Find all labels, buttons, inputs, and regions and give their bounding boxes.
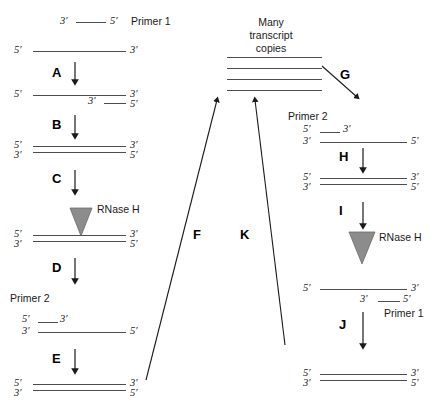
right-stage5-bottom-right-end: 5′	[411, 378, 419, 389]
right-stage2-bottom-right-end: 5′	[411, 182, 419, 193]
step-letter-i: I	[339, 204, 343, 217]
left-stage1-strand	[33, 51, 126, 52]
right-stage4-top-strand	[320, 289, 407, 290]
right-stage5-top-strand	[320, 374, 407, 375]
arrow-step-k	[255, 100, 285, 345]
step-letter-g: G	[340, 68, 350, 81]
right-stage1-primer-left-end: 5′	[303, 124, 311, 135]
primer1-legend-name: Primer 1	[131, 15, 171, 28]
left-stage5-primer-strand	[38, 322, 58, 323]
left-stage4-bottom-left-end: 3′	[14, 239, 22, 250]
left-stage2-primer-right-end: 5′	[130, 99, 138, 110]
left-stage3-bottom-right-end: 5′	[130, 150, 138, 161]
left-stage5-template-strand	[38, 332, 126, 333]
step-letter-j: J	[339, 318, 346, 331]
step-letter-a: A	[52, 66, 61, 79]
right-stage1-primer-right-end: 3′	[343, 124, 351, 135]
left-stage2-primer-strand	[104, 103, 126, 104]
right-stage1-template-right-end: 5′	[411, 136, 419, 147]
left-stage4-top-strand	[33, 235, 126, 236]
left-stage5-template-right-end: 5′	[130, 326, 138, 337]
transcripts-caption-line2: transcript	[225, 29, 317, 42]
transcript-copy-line-4	[227, 90, 322, 91]
left-stage5-primer-left-end: 5′	[22, 314, 30, 325]
left-stage2-top-left-end: 5′	[14, 89, 22, 100]
step-letter-d: D	[52, 261, 61, 274]
right-stage1-primer-name: Primer 2	[288, 110, 328, 123]
transcript-copy-line-1	[227, 57, 322, 58]
transcripts-caption-line1: Many	[225, 16, 317, 29]
right-stage4-primer-strand	[378, 301, 400, 302]
right-stage4-primer-right-end: 5′	[403, 294, 411, 305]
right-stage1-primer-strand	[320, 132, 340, 133]
primer1-legend-right-end: 5′	[110, 16, 118, 27]
left-stage2-template-strand	[33, 95, 126, 96]
rnase-h-triangle-right	[349, 232, 375, 264]
left-stage1-right-end: 3′	[130, 45, 138, 56]
left-stage6-bottom-right-end: 5′	[130, 388, 138, 399]
amplification-diagram: 3′ 5′ Primer 1 5′ 3′ A 5′ 3′ 3′ 5′ B 5′ …	[0, 0, 448, 410]
left-stage6-bottom-strand	[33, 390, 126, 391]
left-stage2-primer-left-end: 3′	[88, 96, 96, 107]
left-stage4-bottom-right-end: 5′	[130, 239, 138, 250]
step-letter-b: B	[52, 118, 61, 131]
left-stage6-top-strand	[33, 384, 126, 385]
rnase-h-triangle-left	[70, 208, 92, 236]
right-stage5-bottom-strand	[320, 380, 407, 381]
step-letter-e: E	[52, 352, 61, 365]
step-letter-k: K	[240, 228, 249, 241]
step-letter-h: H	[339, 150, 348, 163]
primer1-legend-strand	[76, 22, 106, 23]
left-stage1-left-end: 5′	[14, 45, 22, 56]
right-stage2-bottom-strand	[320, 184, 407, 185]
transcript-copy-line-2	[227, 68, 322, 69]
left-stage5-primer-name: Primer 2	[10, 292, 50, 305]
right-stage5-bottom-left-end: 3′	[303, 378, 311, 389]
right-stage4-top-right-end: 3′	[411, 283, 419, 294]
primer1-legend-left-end: 3′	[60, 16, 68, 27]
right-stage2-bottom-left-end: 3′	[303, 182, 311, 193]
right-stage4-top-left-end: 5′	[303, 283, 311, 294]
diagram-vector-overlay	[0, 0, 448, 410]
step-letter-f: F	[193, 228, 201, 241]
transcript-copy-line-3	[227, 79, 322, 80]
arrow-step-f	[146, 100, 217, 380]
right-stage1-template-left-end: 3′	[303, 136, 311, 147]
left-stage3-bottom-strand	[33, 152, 126, 153]
left-stage3-bottom-left-end: 3′	[14, 150, 22, 161]
rnase-h-label-left: RNase H	[97, 203, 140, 216]
transcripts-caption-line3: copies	[225, 42, 317, 55]
left-stage5-template-left-end: 3′	[22, 326, 30, 337]
rnase-h-label-right: RNase H	[379, 231, 422, 244]
left-stage5-primer-right-end: 3′	[60, 314, 68, 325]
left-stage3-top-strand	[33, 146, 126, 147]
left-stage4-bottom-strand	[33, 241, 126, 242]
left-stage6-bottom-left-end: 3′	[14, 388, 22, 399]
step-letter-c: C	[52, 172, 61, 185]
right-stage4-primer-left-end: 3′	[360, 294, 368, 305]
right-stage2-top-strand	[320, 178, 407, 179]
right-stage4-primer-name: Primer 1	[384, 307, 424, 320]
right-stage1-template-strand	[320, 142, 407, 143]
